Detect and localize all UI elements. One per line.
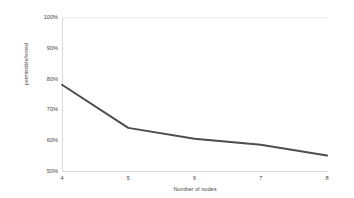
y-axis-title: permissible/tested bbox=[20, 16, 32, 112]
x-axis-tick-label: 8 bbox=[325, 174, 328, 182]
x-axis-tick-label: 4 bbox=[60, 174, 63, 182]
plot-area bbox=[62, 17, 327, 171]
y-axis-tick-label: 90% bbox=[34, 45, 58, 51]
data-series-line bbox=[62, 17, 327, 171]
x-axis-tick-label: 5 bbox=[127, 174, 130, 182]
line-chart: permissible/tested 100%90%80%70%60%50% 4… bbox=[0, 0, 354, 198]
y-axis-tick-label: 60% bbox=[34, 137, 58, 143]
x-axis-line bbox=[62, 171, 328, 172]
y-axis-tick-label: 70% bbox=[34, 106, 58, 112]
x-axis-tick-labels: 45678 bbox=[62, 174, 328, 184]
y-axis-tick-label: 80% bbox=[34, 76, 58, 82]
x-axis-title: Number of nodes bbox=[62, 185, 328, 193]
y-axis-tick-labels: 100%90%80%70%60%50% bbox=[34, 0, 58, 198]
y-axis-tick-label: 100% bbox=[34, 14, 58, 20]
x-axis-tick-label: 7 bbox=[259, 174, 262, 182]
x-axis-tick-label: 6 bbox=[193, 174, 196, 182]
y-axis-tick-label: 50% bbox=[34, 168, 58, 174]
